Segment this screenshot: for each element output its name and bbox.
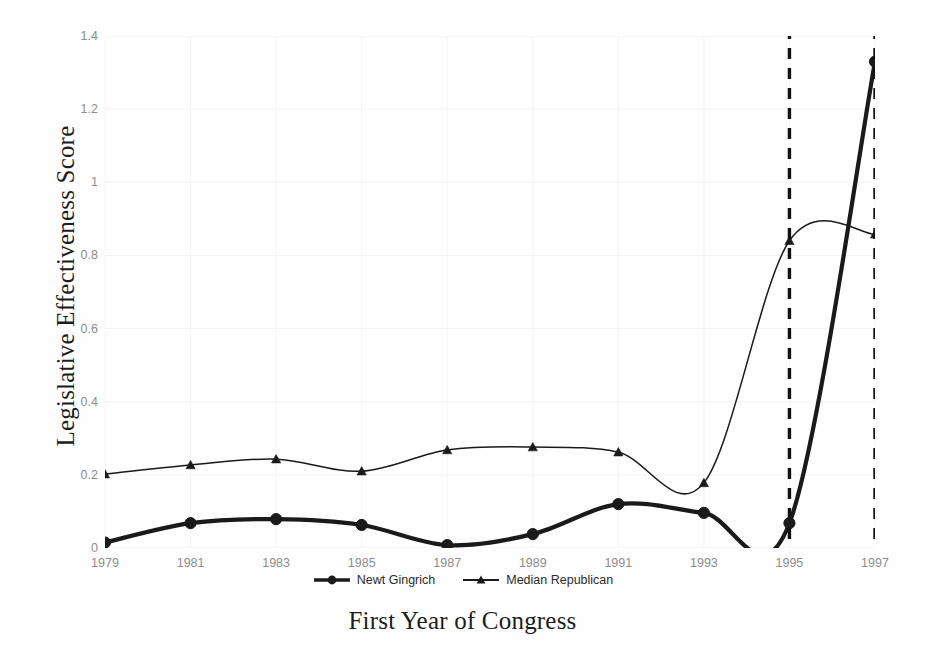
data-point-circle: [698, 507, 709, 518]
y-axis-tick-labels: 00.20.40.60.811.21.4: [48, 36, 98, 548]
series-line-triangle: [105, 221, 875, 494]
y-tick-label: 0.4: [54, 395, 98, 409]
data-point-circle: [271, 514, 282, 525]
chart-page: Legislative Effectiveness Score First Ye…: [0, 0, 925, 654]
y-tick-label: 0.2: [54, 468, 98, 482]
legend-item-2[interactable]: Median Republican: [461, 573, 613, 587]
y-tick-label: 0.8: [54, 248, 98, 262]
x-tick-label: 1991: [583, 556, 653, 570]
legend-triangle-icon: [461, 573, 501, 587]
series-2: [105, 221, 875, 494]
data-point-circle: [105, 537, 111, 548]
x-tick-label: 1985: [327, 556, 397, 570]
x-tick-label: 1995: [754, 556, 824, 570]
data-point-circle: [356, 519, 367, 530]
x-axis-title: First Year of Congress: [0, 607, 925, 635]
legend-marker-circle: [327, 576, 336, 585]
data-point-circle: [185, 518, 196, 529]
y-tick-label: 1.4: [54, 29, 98, 43]
x-tick-label: 1979: [70, 556, 140, 570]
grid-lines: [105, 36, 875, 548]
data-point-circle: [784, 518, 795, 529]
legend-label: Median Republican: [506, 573, 613, 587]
legend-item-1[interactable]: Newt Gingrich: [312, 573, 436, 587]
x-tick-label: 1989: [498, 556, 568, 570]
legend-circle-icon: [312, 573, 352, 587]
plot-area: [105, 36, 875, 548]
chart-svg: [105, 36, 875, 548]
chart-legend: Newt GingrichMedian Republican: [0, 573, 925, 587]
data-point-circle: [442, 539, 453, 548]
data-point-circle: [613, 499, 624, 510]
x-tick-label: 1983: [241, 556, 311, 570]
y-tick-label: 0.6: [54, 322, 98, 336]
x-tick-label: 1993: [669, 556, 739, 570]
data-point-circle: [527, 529, 538, 540]
series-1: [105, 56, 875, 548]
y-tick-label: 0: [54, 541, 98, 555]
y-tick-label: 1.2: [54, 102, 98, 116]
x-tick-label: 1987: [412, 556, 482, 570]
x-tick-label: 1981: [156, 556, 226, 570]
y-tick-label: 1: [54, 175, 98, 189]
x-tick-label: 1997: [840, 556, 910, 570]
legend-label: Newt Gingrich: [357, 573, 436, 587]
